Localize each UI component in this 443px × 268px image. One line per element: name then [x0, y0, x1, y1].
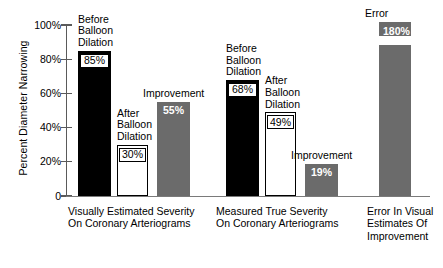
bar-value-label: 55% — [159, 105, 188, 117]
bar-caption: BeforeBalloonDilation — [226, 43, 261, 78]
bar-caption-line: Improvement — [143, 88, 204, 100]
chart-canvas: Percent Diameter Narrowing 020%40%60%80%… — [0, 0, 443, 268]
bar-caption-line: Before — [226, 43, 261, 55]
bar — [226, 80, 259, 196]
axis-break-zigzag-icon — [379, 36, 411, 45]
group-caption: Measured True SeverityOn Coronary Arteri… — [216, 205, 339, 230]
group-caption-line: Visually Estimated Severity — [68, 205, 194, 217]
group-caption-line: Estimates Of — [367, 217, 433, 229]
bar-caption-line: Dilation — [117, 131, 152, 143]
bar-caption: Improvement — [291, 150, 352, 162]
group-caption-line: On Coronary Arteriograms — [216, 217, 339, 229]
bar — [78, 51, 111, 196]
bar-value-label: 85% — [80, 54, 109, 68]
bar-caption: Improvement — [143, 88, 204, 100]
group-baseline — [365, 196, 430, 197]
bars-layer — [0, 0, 443, 196]
group-caption: Visually Estimated SeverityOn Coronary A… — [68, 205, 194, 230]
bar-value-label: 49% — [267, 115, 294, 129]
bar-caption-line: Improvement — [291, 150, 352, 162]
bar-value-label: 30% — [119, 148, 146, 162]
bar-caption: AfterBalloonDilation — [117, 108, 152, 143]
bar-caption: BeforeBalloonDilation — [78, 14, 113, 49]
bar-caption: Error — [365, 8, 388, 20]
bar-value-label: 19% — [307, 167, 336, 179]
bar-caption-line: Dilation — [226, 66, 261, 78]
bar-caption-line: Error — [365, 8, 388, 20]
bar — [379, 22, 411, 196]
bar-caption-line: Dilation — [78, 37, 113, 49]
group-baseline — [214, 196, 345, 197]
group-caption-line: On Coronary Arteriograms — [68, 217, 194, 229]
bar-caption-line: Balloon — [265, 87, 300, 99]
bar-caption: AfterBalloonDilation — [265, 75, 300, 110]
group-caption-line: Improvement — [367, 230, 433, 242]
bar-caption-line: Dilation — [265, 99, 300, 111]
group-caption-line: Measured True Severity — [216, 205, 339, 217]
bar-value-label: 180% — [381, 25, 409, 37]
bar-value-label: 68% — [228, 83, 257, 97]
group-caption-line: Error In Visual — [367, 205, 433, 217]
group-caption: Error In VisualEstimates OfImprovement — [367, 205, 433, 242]
group-baseline — [66, 196, 196, 197]
